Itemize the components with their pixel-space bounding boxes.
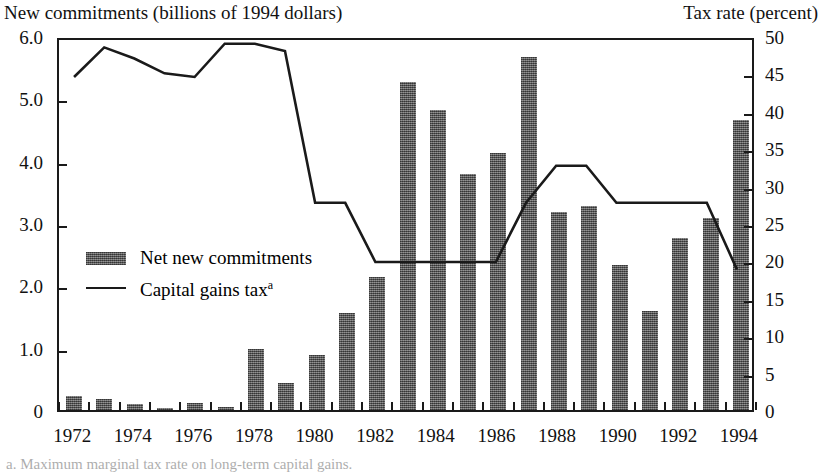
- y2-axis-tick: [744, 376, 752, 378]
- y2-axis-tick-label: 50: [765, 28, 784, 47]
- bar: [460, 174, 476, 410]
- y-axis-tick-label: 6.0: [19, 28, 43, 47]
- y2-axis-tick: [744, 263, 752, 265]
- y2-axis-tick: [744, 338, 752, 340]
- bar: [672, 238, 688, 410]
- x-axis-tick-label: 1980: [296, 426, 334, 445]
- bar: [400, 82, 416, 410]
- legend-label-net-new-commitments: Net new commitments: [140, 243, 312, 273]
- chart-figure: New commitments (billions of 1994 dollar…: [0, 0, 822, 473]
- x-axis-tick: [543, 402, 545, 410]
- bar: [703, 218, 719, 410]
- legend-line-swatch-icon: [86, 287, 126, 289]
- x-axis-tick: [603, 402, 605, 410]
- y2-axis-tick: [744, 301, 752, 303]
- y2-axis-tick-label: 30: [765, 178, 784, 197]
- y-axis-tick-label: 5.0: [19, 90, 43, 109]
- y2-axis-tick-label: 20: [765, 252, 784, 271]
- bar: [339, 313, 355, 410]
- y-axis-tick: [59, 164, 67, 166]
- x-axis-tick-label: 1992: [659, 426, 697, 445]
- bar: [369, 277, 385, 410]
- plot-area: [57, 38, 754, 412]
- left-axis-title: New commitments (billions of 1994 dollar…: [4, 2, 342, 24]
- y2-axis-tick-label: 5: [765, 365, 775, 384]
- y2-axis-tick-label: 0: [765, 402, 775, 421]
- legend-bar-swatch-icon: [86, 252, 126, 265]
- bar: [157, 408, 173, 410]
- bar: [612, 265, 628, 410]
- x-axis-tick-label: 1976: [174, 426, 212, 445]
- x-axis-tick: [482, 402, 484, 410]
- x-axis-tick: [634, 402, 636, 410]
- legend-footnote-marker: a: [268, 278, 273, 292]
- bar: [581, 206, 597, 410]
- x-axis-tick-label: 1990: [599, 426, 637, 445]
- bar: [127, 404, 143, 410]
- bar: [430, 110, 446, 410]
- bar: [187, 403, 203, 410]
- x-axis-tick: [119, 402, 121, 410]
- y2-axis-tick-label: 25: [765, 215, 784, 234]
- x-axis-tick: [391, 402, 393, 410]
- y2-axis-tick-label: 40: [765, 103, 784, 122]
- x-axis-tick: [149, 402, 151, 410]
- bar: [521, 57, 537, 410]
- legend-label-capital-gains-tax-text: Capital gains tax: [140, 280, 268, 301]
- x-axis-tick: [513, 402, 515, 410]
- y-axis-tick: [59, 288, 67, 290]
- bar: [248, 349, 264, 410]
- bar: [309, 355, 325, 410]
- x-axis-tick-label: 1974: [114, 426, 152, 445]
- x-axis-tick: [573, 402, 575, 410]
- legend-label-capital-gains-tax: Capital gains taxa: [140, 270, 273, 305]
- y2-axis-tick-label: 10: [765, 327, 784, 346]
- y-axis-tick: [59, 226, 67, 228]
- x-axis-tick-label: 1982: [356, 426, 394, 445]
- y2-axis-tick: [744, 151, 752, 153]
- bar: [96, 399, 112, 410]
- bar: [278, 383, 294, 410]
- x-axis-tick: [664, 402, 666, 410]
- y2-axis-tick: [744, 226, 752, 228]
- y2-axis-tick: [744, 189, 752, 191]
- y2-axis-tick-label: 45: [765, 65, 784, 84]
- legend-item-capital-gains-tax: Capital gains taxa: [86, 273, 312, 303]
- x-axis-tick: [755, 402, 757, 410]
- legend-item-net-new-commitments: Net new commitments: [86, 243, 312, 273]
- y-axis-tick: [59, 101, 67, 103]
- plot-inner: [59, 40, 752, 410]
- x-axis-tick: [694, 402, 696, 410]
- x-axis-tick: [270, 402, 272, 410]
- bar: [66, 396, 82, 410]
- chart-legend: Net new commitments Capital gains taxa: [86, 243, 312, 303]
- x-axis-tick: [179, 402, 181, 410]
- bar: [551, 212, 567, 410]
- x-axis-tick: [88, 402, 90, 410]
- x-axis-tick: [300, 402, 302, 410]
- x-axis-tick: [422, 402, 424, 410]
- x-axis-tick: [240, 402, 242, 410]
- y-axis-tick-label: 0: [34, 402, 44, 421]
- x-axis-tick-label: 1986: [477, 426, 515, 445]
- footnote: a. Maximum marginal tax rate on long-ter…: [6, 455, 352, 473]
- x-axis-tick-label: 1988: [538, 426, 576, 445]
- y-axis-tick-label: 1.0: [19, 340, 43, 359]
- y-axis-tick-label: 3.0: [19, 215, 43, 234]
- bar: [490, 153, 506, 410]
- right-axis-title: Tax rate (percent): [683, 2, 818, 24]
- x-axis-tick-label: 1994: [720, 426, 758, 445]
- x-axis-tick: [58, 402, 60, 410]
- y-axis-tick: [59, 351, 67, 353]
- y-axis-tick-label: 4.0: [19, 153, 43, 172]
- bar: [642, 311, 658, 410]
- x-axis-tick: [361, 402, 363, 410]
- y2-axis-tick: [744, 76, 752, 78]
- x-axis-tick: [331, 402, 333, 410]
- x-axis-tick-label: 1972: [53, 426, 91, 445]
- y2-axis-tick-label: 15: [765, 290, 784, 309]
- y-axis-tick-label: 2.0: [19, 277, 43, 296]
- x-axis-tick-label: 1978: [235, 426, 273, 445]
- x-axis-tick: [725, 402, 727, 410]
- x-axis-tick-label: 1984: [417, 426, 455, 445]
